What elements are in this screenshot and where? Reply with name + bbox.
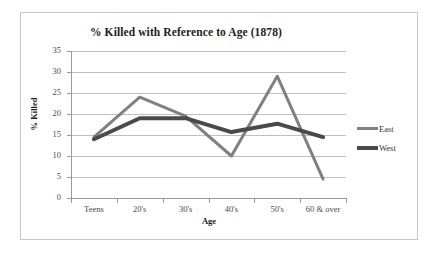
y-axis-tick [67,156,71,157]
x-axis-tick [163,199,164,203]
legend-label-east: East [379,124,394,134]
legend-label-west: West [379,143,396,153]
legend-swatch-west-icon [357,146,378,150]
x-axis-tick [300,199,301,203]
y-axis-label: 5 [27,172,61,181]
y-axis-tick [67,93,71,94]
y-axis-tick [67,51,71,52]
x-axis-label: 60 & over [293,204,353,214]
x-axis-tick [71,199,72,203]
legend-swatch-east-icon [357,127,378,130]
y-axis-label: 35 [27,46,61,55]
x-axis-tick [117,199,118,203]
y-axis-label: 20 [27,109,61,118]
y-axis-label: 15 [27,130,61,139]
x-axis-tick [346,199,347,203]
y-axis-tick [67,135,71,136]
x-axis-tick [209,199,210,203]
chart-container: % Killed with Reference to Age (1878) % … [20,12,418,240]
y-axis-label: 25 [27,88,61,97]
y-axis-label: 0 [27,193,61,202]
y-axis-label: 10 [27,151,61,160]
chart-legend: East West [357,119,417,157]
legend-item-east[interactable]: East [357,119,417,138]
y-axis-label: 30 [27,67,61,76]
y-axis-tick [67,177,71,178]
x-axis-tick [254,199,255,203]
y-axis-tick [67,72,71,73]
legend-item-west[interactable]: West [357,138,417,157]
y-axis-tick [67,114,71,115]
